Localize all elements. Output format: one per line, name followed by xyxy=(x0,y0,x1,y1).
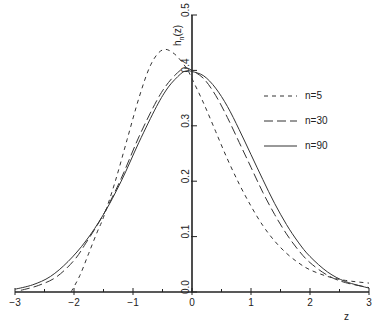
x-axis-label: z xyxy=(344,311,349,322)
svg-text:0.2: 0.2 xyxy=(180,169,191,183)
legend-label-n-90: n=90 xyxy=(305,140,328,151)
y-tick-label: 0.3 xyxy=(180,113,191,127)
x-tick-label: −3 xyxy=(9,297,21,308)
svg-text:hn(z): hn(z) xyxy=(172,25,185,46)
y-tick-label: 0.2 xyxy=(180,169,191,183)
y-tick-label: 0.5 xyxy=(180,3,191,17)
svg-text:0.1: 0.1 xyxy=(180,224,191,238)
svg-text:0.0: 0.0 xyxy=(180,280,191,294)
legend-label-n-30: n=30 xyxy=(305,115,328,126)
legend: n=5n=30n=90 xyxy=(264,90,328,151)
x-tick-label: 2 xyxy=(307,297,313,308)
x-tick-label: 0 xyxy=(189,297,195,308)
y-tick-label: 0.1 xyxy=(180,224,191,238)
x-tick-label: −2 xyxy=(68,297,80,308)
x-tick-label: 3 xyxy=(366,297,372,308)
svg-text:0.3: 0.3 xyxy=(180,113,191,127)
y-tick-label: 0.4 xyxy=(180,58,191,72)
curve-n-5 xyxy=(71,49,369,292)
y-tick-label: 0.0 xyxy=(180,280,191,294)
svg-text:0.5: 0.5 xyxy=(180,3,191,17)
svg-text:0.4: 0.4 xyxy=(180,58,191,72)
y-axis-label: hn(z) xyxy=(172,25,185,46)
chart: −3−2−10123 0.00.10.20.30.40.5 n=5n=30n=9… xyxy=(0,0,384,329)
legend-label-n-5: n=5 xyxy=(305,90,322,101)
x-tick-label: −1 xyxy=(127,297,139,308)
x-tick-label: 1 xyxy=(248,297,254,308)
